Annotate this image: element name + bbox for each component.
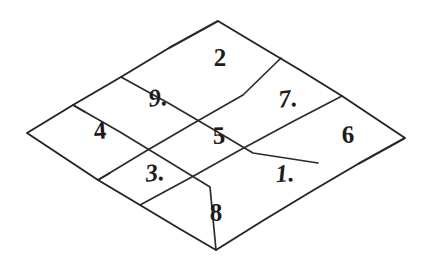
figure-root: 4 9. 2 3. 5 7. 8 1. 6: [0, 0, 430, 265]
cell-digit-r0-c2: 2: [214, 44, 227, 71]
cell-digit-r1-c0: 3.: [143, 158, 165, 187]
cell-digit-r1-c1: 5: [212, 122, 225, 149]
diamond-grid-diagram: 4 9. 2 3. 5 7. 8 1. 6: [0, 0, 430, 265]
cell-digit-r2-c1: 1.: [275, 159, 296, 187]
cell-digit-r2-c0: 8: [210, 199, 223, 226]
cell-digit-r1-c2: 7.: [277, 84, 298, 113]
cell-digit-r0-c0: 4: [93, 116, 108, 144]
cell-digit-r2-c2: 6: [341, 121, 354, 148]
cell-digit-r0-c1: 9.: [147, 83, 168, 112]
